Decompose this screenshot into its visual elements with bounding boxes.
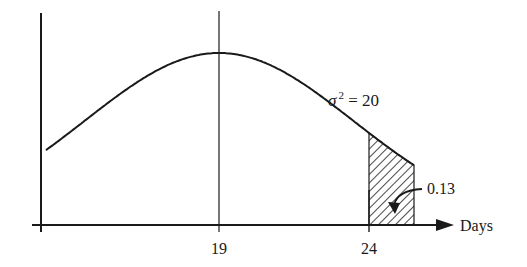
tail-area-label: 0.13 <box>427 180 455 197</box>
tick-label-19: 19 <box>211 240 227 257</box>
shaded-tail-area <box>369 133 414 225</box>
variance-label: σ2 = 20 <box>328 89 379 110</box>
tick-label-24: 24 <box>361 240 377 257</box>
normal-distribution-chart: Days 19 24 σ2 = 20 0.13 <box>0 0 527 267</box>
x-axis-arrow-icon <box>436 219 454 231</box>
x-axis-label: Days <box>460 217 493 235</box>
